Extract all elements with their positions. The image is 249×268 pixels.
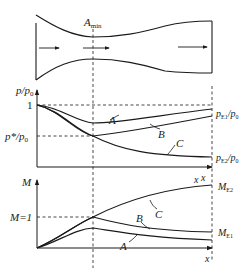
- pressure-tick-pstar: p*/p0: [4, 130, 29, 144]
- mach-x-axis-label: x: [204, 253, 210, 264]
- nozzle: [36, 15, 212, 80]
- mach-leader-A: [129, 235, 137, 242]
- pressure-y-axis-label: p/p0: [15, 84, 34, 98]
- pressure-tick-one: 1: [27, 99, 33, 111]
- nozzle-bottom-wall: [36, 59, 212, 80]
- mach-label-C: C: [155, 208, 163, 220]
- leader-C: [167, 145, 175, 155]
- converging-diverging-nozzle-diagram: Amin p/p0 1 p*/p0 A B C pE1/p0 pE2/p0 x: [0, 0, 249, 268]
- pressure-right-label-E2: pE2/p0: [215, 152, 238, 164]
- nozzle-top-wall: [36, 15, 212, 37]
- pressure-label-B: B: [158, 128, 165, 140]
- mach-label-A: A: [119, 240, 127, 252]
- pressure-x-axis-label: x: [200, 172, 206, 183]
- pressure-label-A: A: [108, 114, 116, 126]
- mach-right-label-E1: ME1: [217, 227, 233, 239]
- pressure-right-label-E1: pE1/p0: [215, 108, 238, 120]
- mach-x-label-top: x: [193, 174, 199, 185]
- pressure-curve-A: [37, 105, 212, 123]
- mach-tick-one: M=1: [9, 211, 32, 223]
- mach-label-B: B: [136, 212, 143, 224]
- mach-right-label-E2: ME2: [217, 181, 233, 193]
- throat-label: Amin: [83, 16, 102, 30]
- mach-y-axis-label: M: [21, 176, 32, 188]
- pressure-label-C: C: [176, 137, 184, 149]
- mach-plot: M M=1 C B A x ME2 ME1 x: [9, 174, 233, 264]
- pressure-plot: p/p0 1 p*/p0 A B C pE1/p0 pE2/p0 x: [4, 84, 238, 183]
